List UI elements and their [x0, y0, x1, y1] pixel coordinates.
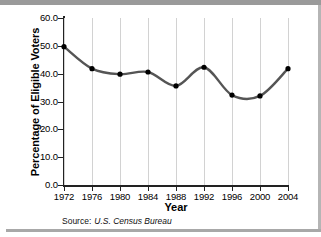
y-tick-label-30.0: 30.0 [6, 96, 58, 107]
source-label: Source: [62, 216, 91, 226]
data-point-1980 [117, 72, 122, 77]
gridline-2004 [288, 18, 289, 185]
y-tick-label-10.0: 10.0 [6, 151, 58, 162]
y-tick-label-0.0: 0.0 [6, 179, 58, 190]
y-tick-label-40.0: 40.0 [6, 68, 58, 79]
y-tick-label-60.0: 60.0 [6, 12, 58, 23]
bottom-border-rule [6, 229, 321, 232]
data-point-1988 [173, 83, 178, 88]
y-tick-label-20.0: 20.0 [6, 123, 58, 134]
data-series-voter-turnout [64, 18, 288, 185]
y-tick-label-wrap: 20.0 [0, 123, 58, 133]
y-tick-label-wrap: 50.0 [0, 40, 58, 50]
series-line [64, 47, 288, 99]
source-value: U.S. Census Bureau [91, 216, 171, 226]
x-axis-title: Year [64, 201, 288, 213]
chart-figure: Percentage of Eligible Voters 0.010.020.… [0, 0, 321, 237]
y-tick-label-wrap: 40.0 [0, 68, 58, 78]
source-note: Source:U.S. Census Bureau [62, 216, 172, 226]
y-tick-label-wrap: 0.0 [0, 179, 58, 189]
data-point-2000 [257, 93, 262, 98]
data-point-1976 [89, 66, 94, 71]
y-tick-label-50.0: 50.0 [6, 40, 58, 51]
y-tick-label-wrap: 60.0 [0, 12, 58, 22]
plot-area [64, 18, 288, 185]
data-point-1972 [61, 44, 66, 49]
data-point-1996 [229, 93, 234, 98]
y-tick-label-wrap: 10.0 [0, 151, 58, 161]
data-point-1984 [145, 69, 150, 74]
y-tick-label-wrap: 30.0 [0, 96, 58, 106]
data-point-2004 [285, 66, 290, 71]
data-point-1992 [201, 65, 206, 70]
